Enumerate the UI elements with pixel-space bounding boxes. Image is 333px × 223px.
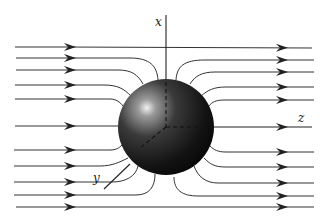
y-axis bbox=[104, 164, 130, 189]
z-axis-label: z bbox=[297, 111, 305, 125]
streamline-1 bbox=[15, 47, 312, 48]
flow-around-sphere-diagram: x z y bbox=[0, 0, 333, 223]
x-axis-label: x bbox=[155, 15, 162, 29]
y-axis-label: y bbox=[92, 171, 100, 185]
streamline-10 bbox=[14, 174, 314, 196]
streamline-2 bbox=[16, 58, 314, 80]
